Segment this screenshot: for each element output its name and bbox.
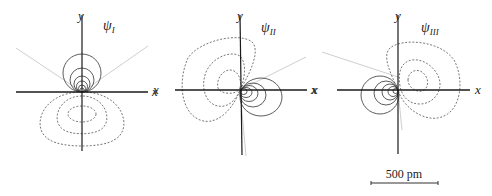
x-axis-label-left: x <box>152 82 159 97</box>
scale-bar-label: 500 pm <box>386 167 423 181</box>
panel-psi-I: x y ψI <box>16 8 158 151</box>
x-axis-label-left: x <box>311 82 318 97</box>
panel-psi-II: x x y ψII <box>152 8 317 156</box>
panel-psi-III: x x y ψIII <box>311 8 481 154</box>
y-axis-label: y <box>76 8 84 23</box>
psi-label: ψII <box>261 20 277 37</box>
psi-label: ψI <box>103 18 116 35</box>
orbital-contour-figure: x y ψI x x y ψII <box>0 0 492 196</box>
nodal-lines <box>322 52 402 130</box>
positive-contours <box>240 78 282 116</box>
x-axis-label-right: x <box>474 82 481 97</box>
y-axis-label: y <box>393 8 401 23</box>
psi-label: ψIII <box>421 20 440 37</box>
scale-bar: 500 pm <box>371 167 438 185</box>
positive-contours <box>361 76 399 114</box>
y-axis-label: y <box>235 8 243 23</box>
